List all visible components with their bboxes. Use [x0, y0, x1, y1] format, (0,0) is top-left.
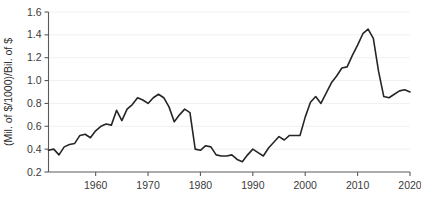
x-tick-label: 1970 [136, 179, 160, 191]
y-tick-label: 1.6 [27, 6, 42, 18]
y-axis-title: (Mil. of $/1000)/Bil. of $ [2, 38, 14, 146]
x-tick-label: 2020 [398, 179, 421, 191]
x-tick-label: 2000 [294, 179, 318, 191]
y-tick-label: 1.2 [27, 51, 42, 63]
y-axis-tick-labels: 0.20.40.60.81.01.21.41.6 [27, 6, 42, 178]
data-series-line [49, 29, 411, 162]
y-tick-label: 0.6 [27, 120, 42, 132]
y-axis-ticks [45, 12, 49, 172]
x-axis-tick-labels: 1960197019801990200020102020 [84, 179, 421, 191]
y-tick-label: 0.4 [27, 143, 42, 155]
line-chart: 0.20.40.60.81.01.21.41.6 196019701980199… [0, 0, 421, 204]
y-tick-label: 0.8 [27, 97, 42, 109]
y-tick-label: 1.4 [27, 28, 42, 40]
y-tick-label: 1.0 [27, 74, 42, 86]
x-axis-ticks [96, 172, 410, 176]
series-path [49, 29, 411, 162]
x-tick-label: 1990 [241, 179, 265, 191]
y-axis-title-text: (Mil. of $/1000)/Bil. of $ [2, 38, 14, 146]
gridlines [49, 12, 411, 149]
x-tick-label: 1960 [84, 179, 108, 191]
x-tick-label: 2010 [346, 179, 370, 191]
y-tick-label: 0.2 [27, 166, 42, 178]
chart-container: 0.20.40.60.81.01.21.41.6 196019701980199… [0, 0, 421, 204]
axes [49, 12, 411, 172]
x-tick-label: 1980 [189, 179, 213, 191]
